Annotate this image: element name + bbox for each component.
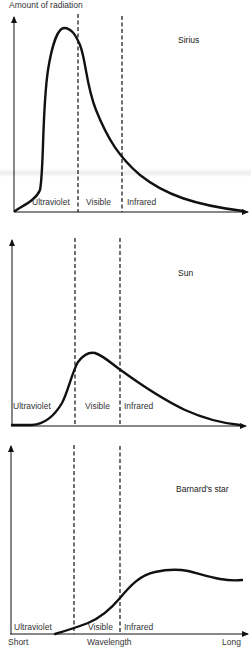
x-axis-start-label: Short <box>8 638 28 647</box>
region-label-visible: Visible <box>88 623 113 632</box>
region-label-visible: Visible <box>86 198 111 207</box>
panel-barnards-star <box>10 445 248 634</box>
star-label-sirius: Sirius <box>178 36 199 45</box>
region-label-ultraviolet: Ultraviolet <box>32 198 70 207</box>
panel-sun <box>11 238 246 426</box>
spectra-diagram <box>0 0 251 649</box>
region-label-ultraviolet: Ultraviolet <box>13 402 51 411</box>
region-label-infrared: Infrared <box>124 402 153 411</box>
x-axis-label: Wavelength <box>87 638 132 647</box>
y-axis-label: Amount of radiation <box>9 1 83 10</box>
radiation-curve <box>15 28 243 211</box>
region-label-infrared: Infrared <box>124 623 153 632</box>
region-label-ultraviolet: Ultraviolet <box>14 623 52 632</box>
panel-sirius <box>14 14 248 212</box>
radiation-curve <box>12 353 240 425</box>
x-axis-end-label: Long <box>222 638 241 647</box>
region-label-visible: Visible <box>85 402 110 411</box>
star-label-barnards-star: Barnard's star <box>176 485 229 494</box>
star-label-sun: Sun <box>178 269 193 278</box>
region-label-infrared: Infrared <box>127 198 156 207</box>
